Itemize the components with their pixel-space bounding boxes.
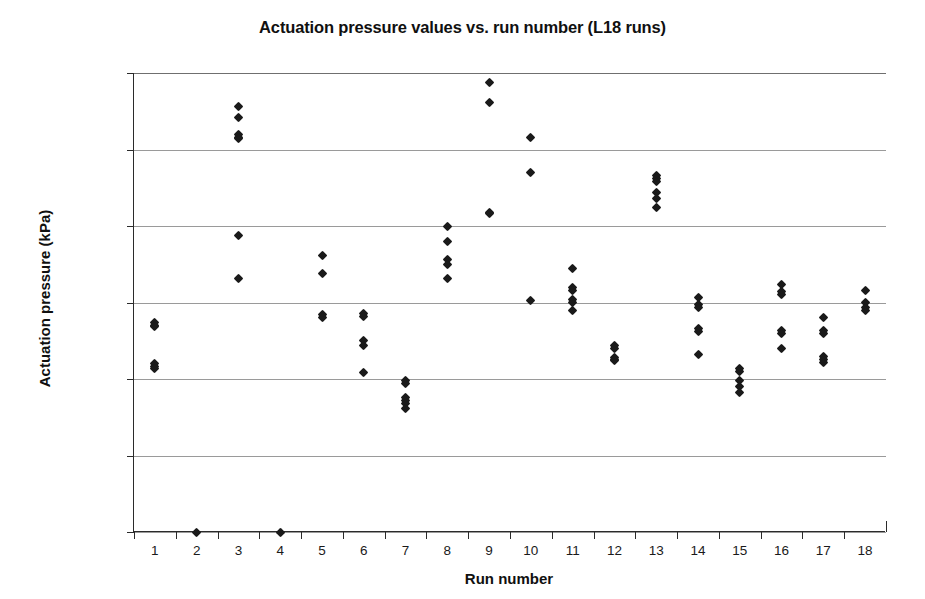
data-point	[777, 343, 787, 353]
x-tick-mark	[677, 532, 678, 539]
y-tick-mark	[127, 379, 134, 380]
data-point	[359, 340, 369, 350]
x-tick-label: 13	[635, 543, 677, 558]
x-axis-label: Run number	[133, 570, 885, 587]
data-point	[693, 350, 703, 360]
x-tick-mark	[510, 532, 511, 539]
y-tick-mark	[127, 456, 134, 457]
data-point	[442, 273, 452, 283]
data-point	[317, 250, 327, 260]
axis-right-cap	[886, 521, 887, 532]
data-point	[568, 305, 578, 315]
x-tick-mark	[426, 532, 427, 539]
y-tick-mark	[127, 532, 134, 533]
y-axis-label: Actuation pressure (kPa)	[36, 169, 53, 429]
x-tick-label: 1	[134, 543, 176, 558]
y-tick-mark	[127, 226, 134, 227]
data-point	[359, 368, 369, 378]
x-tick-label: 6	[343, 543, 385, 558]
plot-area: 0.0050.00100.00150.00200.00250.00300.00 …	[133, 73, 885, 532]
data-point	[526, 132, 536, 142]
x-tick-label: 16	[761, 543, 803, 558]
gridline	[134, 226, 886, 227]
x-tick-label: 11	[552, 543, 594, 558]
data-point	[233, 102, 243, 112]
y-tick-mark	[127, 303, 134, 304]
x-tick-mark	[719, 532, 720, 539]
x-tick-mark	[844, 532, 845, 539]
gridline	[134, 150, 886, 151]
data-point	[568, 264, 578, 274]
x-tick-mark	[552, 532, 553, 539]
x-tick-label: 5	[301, 543, 343, 558]
data-point	[526, 296, 536, 306]
x-tick-mark	[802, 532, 803, 539]
gridline	[134, 456, 886, 457]
x-tick-mark	[259, 532, 260, 539]
data-point	[192, 527, 202, 537]
x-tick-mark	[468, 532, 469, 539]
gridline	[134, 379, 886, 380]
x-tick-label: 14	[677, 543, 719, 558]
data-point	[275, 527, 285, 537]
x-tick-label: 18	[844, 543, 886, 558]
data-point	[860, 285, 870, 295]
gridline	[134, 303, 886, 304]
data-point	[735, 388, 745, 398]
x-tick-mark	[176, 532, 177, 539]
y-tick-mark	[127, 73, 134, 74]
x-tick-label: 15	[719, 543, 761, 558]
data-point	[442, 221, 452, 231]
x-tick-mark	[385, 532, 386, 539]
chart-title: Actuation pressure values vs. run number…	[0, 18, 925, 37]
x-tick-mark	[134, 532, 135, 539]
x-tick-label: 7	[385, 543, 427, 558]
data-point	[526, 167, 536, 177]
x-tick-mark	[635, 532, 636, 539]
chart-figure: Actuation pressure values vs. run number…	[0, 0, 925, 599]
x-tick-label: 3	[217, 543, 259, 558]
data-point	[233, 230, 243, 240]
x-tick-mark	[218, 532, 219, 539]
x-tick-label: 12	[593, 543, 635, 558]
y-tick-mark	[127, 150, 134, 151]
x-tick-label: 8	[426, 543, 468, 558]
x-tick-label: 17	[802, 543, 844, 558]
x-tick-label: 4	[259, 543, 301, 558]
x-tick-label: 10	[510, 543, 552, 558]
data-point	[818, 313, 828, 323]
data-point	[484, 97, 494, 107]
data-point	[651, 203, 661, 213]
data-point	[317, 268, 327, 278]
x-tick-mark	[301, 532, 302, 539]
x-tick-label: 2	[176, 543, 218, 558]
data-point	[442, 236, 452, 246]
data-point	[484, 77, 494, 87]
x-tick-mark	[343, 532, 344, 539]
data-point	[233, 112, 243, 122]
data-point	[233, 273, 243, 283]
gridline	[134, 73, 886, 74]
x-tick-mark	[594, 532, 595, 539]
x-tick-label: 9	[468, 543, 510, 558]
x-tick-mark	[761, 532, 762, 539]
